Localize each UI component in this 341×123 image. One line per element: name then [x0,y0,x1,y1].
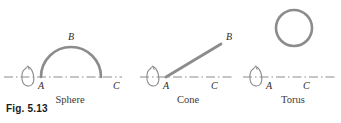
rotation-arrow-icon-torus [250,66,262,86]
panel-sphere: A B C Sphere [4,31,122,105]
point-label-c-torus: C [303,80,310,91]
figure-5-13: A B C Sphere A B C Cone A C Torus [0,0,341,123]
point-label-a-cone: A [162,80,170,91]
generating-curve-sphere [41,47,101,77]
point-label-b-cone: B [226,31,232,42]
rotation-arrow-icon-sphere [22,66,34,86]
panel-title-sphere: Sphere [55,94,84,105]
point-label-a-sphere: A [37,80,45,91]
panel-title-torus: Torus [281,94,305,105]
point-label-c-cone: C [211,80,218,91]
point-label-c-sphere: C [113,80,120,91]
point-label-a-torus: A [265,80,273,91]
generating-circle-torus [276,10,312,46]
panel-title-cone: Cone [177,94,200,105]
generating-line-cone [166,44,221,77]
point-label-b-sphere: B [68,31,74,42]
panel-torus: A C Torus [243,10,337,105]
panel-cone: A B C Cone [140,31,232,105]
figure-caption: Fig. 5.13 [6,103,48,114]
rotation-arrow-icon-cone [147,66,159,86]
figure-canvas: A B C Sphere A B C Cone A C Torus [0,0,341,123]
